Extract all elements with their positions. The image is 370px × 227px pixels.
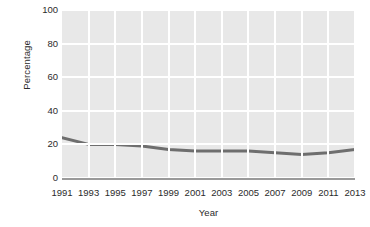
grid-line-vertical	[221, 10, 223, 178]
grid-line-vertical	[114, 10, 116, 178]
grid-line-horizontal	[62, 143, 355, 145]
y-axis-tick-label: 100	[2, 4, 58, 16]
x-axis-tick-label: 1999	[154, 186, 184, 199]
series-polyline	[62, 138, 355, 155]
x-axis-tick-label: 2001	[180, 186, 210, 199]
y-axis-tick-label: 80	[2, 38, 58, 50]
x-axis-tick-labels: 1991199319951997199920012003200520072009…	[0, 186, 361, 200]
grid-line-vertical	[247, 10, 249, 178]
grid-line-vertical	[141, 10, 143, 178]
x-axis-tick-label: 2009	[287, 186, 317, 199]
grid-line-vertical	[168, 10, 170, 178]
x-axis-tick-label: 2011	[313, 186, 343, 199]
grid-line-horizontal	[62, 10, 355, 11]
y-axis-tick-label: 60	[2, 71, 58, 83]
x-axis-tick-label: 2003	[207, 186, 237, 199]
plot-area	[62, 10, 355, 178]
grid-line-horizontal	[62, 76, 355, 78]
grid-line-horizontal	[62, 110, 355, 112]
x-axis-tick-label: 2013	[340, 186, 370, 199]
y-axis-tick-labels: 020406080100	[0, 0, 58, 200]
x-axis-tick-label: 1997	[127, 186, 157, 199]
grid-line-vertical	[194, 10, 196, 178]
grid-line-vertical	[88, 10, 90, 178]
y-axis-tick-label: 40	[2, 105, 58, 117]
x-axis-tick-label: 1991	[47, 186, 77, 199]
x-axis-title: Year	[62, 207, 355, 218]
x-axis-spine	[62, 178, 355, 180]
grid-line-vertical	[354, 10, 355, 178]
x-axis-tick-label: 1995	[100, 186, 130, 199]
grid-line-vertical	[301, 10, 303, 178]
grid-line-vertical	[274, 10, 276, 178]
x-axis-tick-label: 2007	[260, 186, 290, 199]
grid-line-vertical	[327, 10, 329, 178]
x-axis-tick-label: 2005	[233, 186, 263, 199]
y-axis-tick-label: 0	[2, 172, 58, 184]
series-line-percentage	[62, 10, 355, 178]
y-axis-tick-label: 20	[2, 138, 58, 150]
grid-line-horizontal	[62, 43, 355, 45]
x-axis-tick-label: 1993	[74, 186, 104, 199]
